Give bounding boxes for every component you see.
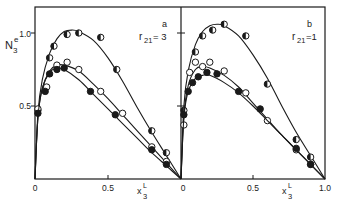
data-point-filled bbox=[46, 71, 52, 77]
data-point-filled bbox=[42, 88, 48, 94]
data-point-filled bbox=[204, 69, 210, 75]
data-point-open bbox=[119, 110, 125, 116]
fit-curve-filled bbox=[35, 68, 181, 179]
data-point-filled bbox=[307, 161, 313, 167]
x-label-sup: L bbox=[288, 182, 292, 189]
fit-curve-open bbox=[35, 64, 181, 179]
x-tick-b-1.0: 1.0 bbox=[319, 183, 331, 193]
data-point-open bbox=[76, 66, 82, 72]
data-point-filled bbox=[35, 110, 41, 116]
fit-curve-filled bbox=[181, 75, 325, 179]
data-point-filled bbox=[61, 65, 67, 71]
panel-a-letter: a bbox=[162, 19, 167, 29]
data-point-half bbox=[199, 33, 205, 39]
fit-curve-half bbox=[35, 30, 181, 179]
y-axis-label: N 3 e bbox=[5, 35, 19, 55]
param-value: = 3 bbox=[153, 31, 166, 42]
data-point-open bbox=[98, 88, 104, 94]
param-value: =1 bbox=[306, 31, 317, 42]
data-point-filled bbox=[257, 106, 263, 112]
data-point-half bbox=[163, 150, 169, 156]
data-point-half bbox=[264, 81, 270, 87]
x-tick-a-0: 0 bbox=[33, 183, 38, 193]
figure-canvas: N 3 e 1.0 0.5 0 0.5 0 0.5 1.0 x 3 L x 3 … bbox=[0, 0, 342, 207]
data-point-half bbox=[114, 66, 120, 72]
y-label-main: N bbox=[5, 39, 13, 51]
x-tick-b-0: 0 bbox=[181, 183, 186, 193]
x-axis-label-a: x 3 L bbox=[137, 182, 147, 201]
panel-a-annotation: a r 21 = 3 bbox=[139, 19, 167, 45]
data-point-open bbox=[243, 90, 249, 96]
data-point-open bbox=[192, 59, 198, 65]
data-point-filled bbox=[54, 66, 60, 72]
data-point-half bbox=[293, 136, 299, 142]
data-point-half bbox=[46, 55, 52, 61]
data-point-filled bbox=[293, 145, 299, 151]
data-point-filled bbox=[163, 161, 169, 167]
panel-b-letter: b bbox=[307, 19, 312, 29]
x-label-sub: 3 bbox=[143, 192, 147, 201]
data-point-half bbox=[307, 154, 313, 160]
data-point-half bbox=[209, 27, 215, 33]
data-point-filled bbox=[189, 79, 195, 85]
data-point-open bbox=[221, 68, 227, 74]
plot-frame bbox=[31, 7, 325, 179]
panel-b-annotation: b r 21 =1 bbox=[292, 19, 317, 45]
data-point-half bbox=[149, 128, 155, 134]
y-tick-0.5: 0.5 bbox=[19, 101, 31, 111]
data-point-open bbox=[186, 69, 192, 75]
x-tick-b-0.5: 0.5 bbox=[247, 183, 259, 193]
fit-curve-open bbox=[181, 66, 325, 179]
data-point-half bbox=[221, 21, 227, 27]
data-point-half bbox=[76, 30, 82, 36]
param-sub: 21 bbox=[297, 36, 305, 45]
data-point-filled bbox=[149, 147, 155, 153]
x-label-main: x bbox=[137, 186, 142, 196]
param-label: r bbox=[139, 31, 143, 42]
y-tick-1.0: 1.0 bbox=[19, 29, 31, 39]
x-label-sup: L bbox=[143, 182, 147, 189]
x-label-sub: 3 bbox=[288, 192, 292, 201]
data-point-half bbox=[243, 33, 249, 39]
param-sub: 21 bbox=[144, 36, 152, 45]
data-point-filled bbox=[87, 88, 93, 94]
x-axis-label-b: x 3 L bbox=[282, 182, 292, 201]
data-point-half bbox=[97, 34, 103, 40]
data-point-open bbox=[199, 63, 205, 69]
data-point-filled bbox=[195, 74, 201, 80]
data-point-filled bbox=[112, 112, 118, 118]
data-point-half bbox=[51, 43, 57, 49]
data-point-filled bbox=[235, 88, 241, 94]
data-point-half bbox=[192, 49, 198, 55]
x-label-main: x bbox=[282, 186, 287, 196]
data-point-half bbox=[64, 31, 70, 37]
fit-curve-half bbox=[181, 24, 325, 179]
param-label: r bbox=[292, 31, 296, 42]
data-point-filled bbox=[185, 88, 191, 94]
y-label-sub: 3 bbox=[13, 46, 18, 55]
data-point-filled bbox=[214, 71, 220, 77]
data-point-filled bbox=[181, 112, 187, 118]
data-point-open bbox=[207, 59, 213, 65]
panel-a-plot bbox=[35, 30, 181, 179]
x-tick-a-0.5: 0.5 bbox=[102, 183, 114, 193]
